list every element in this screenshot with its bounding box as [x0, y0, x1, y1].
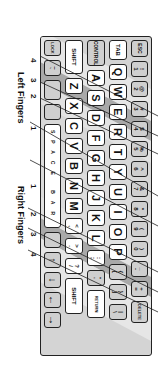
right-finger-1: 1: [29, 184, 38, 188]
left-fingers-label: Left Fingers: [16, 72, 26, 124]
right-finger-4: 4: [29, 252, 38, 256]
right-fingers-label: Right Fingers: [16, 186, 26, 244]
left-finger-4: 4: [29, 58, 38, 62]
keyboard-diagram: ESC !1 @2 #3 $4 %5 ^6 &7 *8 (9 )0 _- += …: [40, 36, 152, 356]
left-finger-1: 1: [29, 126, 38, 130]
left-finger-3: 3: [29, 78, 38, 82]
left-finger-2: 2: [29, 94, 38, 98]
right-finger-3: 3: [29, 232, 38, 236]
right-finger-2: 2: [29, 212, 38, 216]
